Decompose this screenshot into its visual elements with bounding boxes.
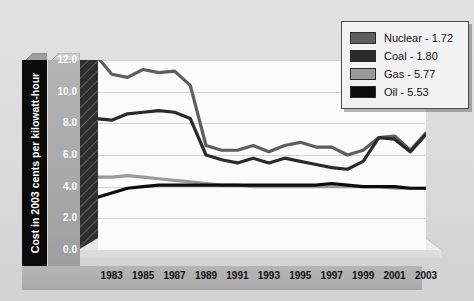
legend-item-label: Nuclear - 1.72 (384, 32, 453, 44)
x-axis-tick-label: 1993 (258, 270, 280, 282)
x-axis-tick-label: 1983 (101, 270, 123, 282)
chart-back-wall-3d (78, 60, 98, 250)
y-axis-tick-label: 12.0 (47, 55, 77, 65)
legend-item[interactable]: Gas - 5.77 (350, 65, 460, 83)
x-axis-tick-label: 2003 (415, 270, 437, 282)
y-axis-tick-label: 6.0 (47, 150, 77, 160)
legend-item-label: Oil - 5.53 (384, 86, 429, 98)
x-axis-tick-label: 1995 (289, 270, 311, 282)
chart-screenshot: 0.02.04.06.08.010.012.0 Cost in 2003 cen… (0, 0, 474, 301)
y-axis-tick-label: 10.0 (47, 87, 77, 97)
legend-item-label: Coal - 1.80 (384, 50, 438, 62)
x-axis-tick-label: 2001 (383, 270, 405, 282)
y-axis-tick-label: 8.0 (47, 118, 77, 128)
x-axis-tick-label: 1987 (163, 270, 185, 282)
y-axis-tick-label: 2.0 (47, 213, 77, 223)
x-axis-tick-label: 1997 (321, 270, 343, 282)
series-line (96, 111, 426, 170)
legend-item[interactable]: Oil - 5.53 (350, 83, 460, 101)
legend-color-swatch (350, 50, 376, 62)
x-axis-tick-labels: 1983198519871989199119931995199719992001… (96, 270, 426, 286)
legend-item[interactable]: Nuclear - 1.72 (350, 29, 460, 47)
legend-color-swatch (350, 68, 376, 80)
y-axis-tick-label: 0.0 (47, 245, 77, 255)
x-axis-tick-label: 1999 (352, 270, 374, 282)
legend-item-label: Gas - 5.77 (384, 68, 435, 80)
legend-color-swatch (350, 32, 376, 44)
legend-item[interactable]: Coal - 1.80 (350, 47, 460, 65)
y-axis-title-strip: Cost in 2003 cents per kilowatt-hour (22, 60, 47, 266)
chart-legend: Nuclear - 1.72Coal - 1.80Gas - 5.77Oil -… (341, 21, 469, 109)
x-axis-tick-label: 1989 (195, 270, 217, 282)
x-axis-tick-label: 1991 (226, 270, 248, 282)
x-axis-tick-label: 1985 (132, 270, 154, 282)
legend-color-swatch (350, 86, 376, 98)
y-axis-title: Cost in 2003 cents per kilowatt-hour (29, 73, 41, 253)
series-line (96, 184, 426, 198)
y-axis-tick-band: 0.02.04.06.08.010.012.0 (48, 60, 80, 266)
y-axis-tick-label: 4.0 (47, 182, 77, 192)
